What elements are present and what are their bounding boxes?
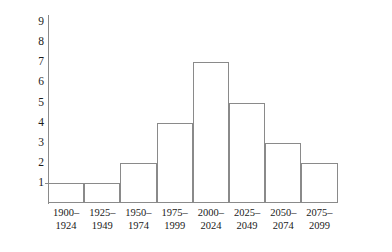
x-axis-tick-label: 1975–1999 [157,206,193,232]
x-axis-tick-labels: 1900–19241925–19491950–19741975–19992000… [0,206,392,246]
x-axis-tick-label-line1: 1975– [157,206,193,219]
x-axis-tick-label: 2050–2074 [265,206,301,232]
x-axis-tick-label: 2075–2099 [301,206,337,232]
histogram-bar [193,62,229,203]
x-axis-tick-label-line1: 2000– [193,206,229,219]
x-axis-tick-label-line1: 1950– [120,206,156,219]
x-axis-tick-label: 2000–2024 [193,206,229,232]
x-axis-tick-label: 1950–1974 [120,206,156,232]
x-axis-tick-label-line2: 1974 [120,219,156,232]
x-axis-tick-label: 1925–1949 [84,206,120,232]
x-axis-tick-label-line2: 2024 [193,219,229,232]
x-axis-tick-label-line2: 1949 [84,219,120,232]
x-axis-tick-label-line2: 2049 [229,219,265,232]
x-axis-tick-label-line1: 2075– [301,206,337,219]
x-axis-tick-label: 1900–1924 [48,206,84,232]
x-axis-tick-label-line1: 2025– [229,206,265,219]
histogram-bar [301,163,337,203]
x-axis-tick-label-line1: 1900– [48,206,84,219]
x-axis-tick-label-line2: 1924 [48,219,84,232]
x-axis-tick-label-line1: 2050– [265,206,301,219]
histogram-bar [265,143,301,203]
histogram-bar [84,183,120,203]
histogram-bar [157,123,193,203]
x-axis-tick-label: 2025–2049 [229,206,265,232]
x-axis-tick-label-line2: 2074 [265,219,301,232]
x-axis-tick-label-line1: 1925– [84,206,120,219]
x-axis-tick-label-line2: 1999 [157,219,193,232]
x-axis-tick-label-line2: 2099 [301,219,337,232]
histogram-chart: Frequency 123456789 1900–19241925–194919… [0,0,392,252]
histogram-bar [120,163,156,203]
histogram-bar [229,103,265,204]
histogram-bar [48,183,84,203]
